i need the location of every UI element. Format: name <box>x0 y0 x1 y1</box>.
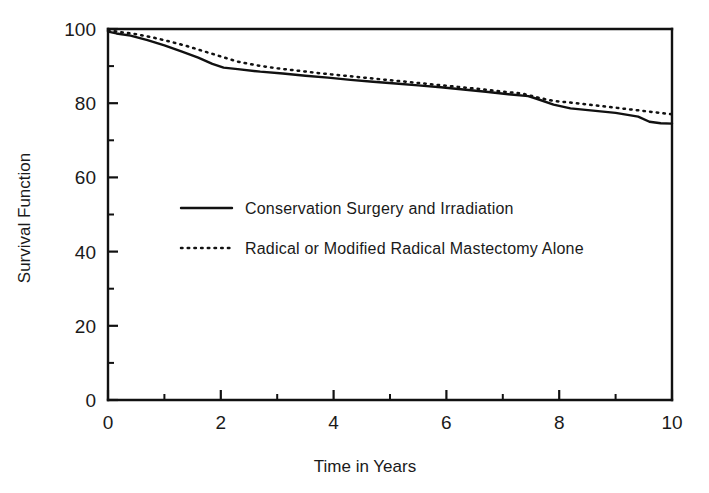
y-tick-label: 0 <box>85 390 96 411</box>
survival-curve-chart: 020406080100 0246810 Time in Years Survi… <box>0 0 709 493</box>
legend-label-conservation: Conservation Surgery and Irradiation <box>245 200 514 217</box>
legend-label-mastectomy: Radical or Modified Radical Mastectomy A… <box>245 240 584 257</box>
x-axis-title: Time in Years <box>314 457 416 476</box>
y-tick-label: 80 <box>75 93 96 114</box>
x-tick-label: 10 <box>661 412 682 433</box>
figure-container: 020406080100 0246810 Time in Years Survi… <box>0 0 709 493</box>
y-axis-title: Survival Function <box>15 153 34 283</box>
y-tick-label: 20 <box>75 316 96 337</box>
x-tick-label: 2 <box>216 412 227 433</box>
x-tick-label: 0 <box>103 412 114 433</box>
y-tick-label: 60 <box>75 167 96 188</box>
x-tick-label: 6 <box>441 412 452 433</box>
y-tick-label: 40 <box>75 242 96 263</box>
x-tick-label: 8 <box>554 412 565 433</box>
x-tick-label: 4 <box>328 412 339 433</box>
y-tick-label: 100 <box>64 19 96 40</box>
